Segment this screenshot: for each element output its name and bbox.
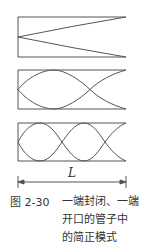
length-label: L (67, 166, 76, 180)
mode-3-panel (18, 123, 126, 161)
mode-2-panel (18, 70, 126, 109)
caption-line-3: 的简正模式 (62, 229, 144, 247)
mode-1-panel (18, 17, 126, 57)
caption-line-2: 开口的管子中 (62, 211, 144, 229)
caption-text: 一端封闭、一端 开口的管子中 的简正模式 (62, 193, 144, 247)
figure-number: 图 2-30 (10, 193, 49, 209)
caption-line-1: 一端封闭、一端 (62, 193, 144, 211)
